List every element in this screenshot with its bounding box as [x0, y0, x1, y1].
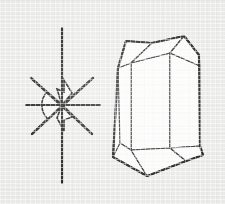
right-prism-face: [170, 53, 200, 148]
left-prism-face: [118, 63, 131, 150]
figure-canvas: [0, 0, 225, 204]
front-prism-face: [131, 53, 170, 150]
right-crystal-diagram: [0, 0, 225, 204]
